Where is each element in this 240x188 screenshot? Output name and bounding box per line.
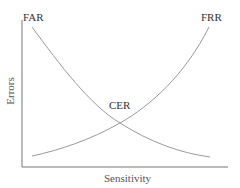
- frr-curve: [32, 27, 209, 156]
- far-curve: [32, 27, 210, 157]
- far-label: FAR: [23, 11, 44, 23]
- error-rate-chart: [0, 0, 240, 188]
- y-axis-label: Errors: [4, 77, 16, 105]
- frr-label: FRR: [201, 11, 222, 23]
- cer-label: CER: [109, 99, 130, 111]
- x-axis-label: Sensitivity: [104, 172, 151, 184]
